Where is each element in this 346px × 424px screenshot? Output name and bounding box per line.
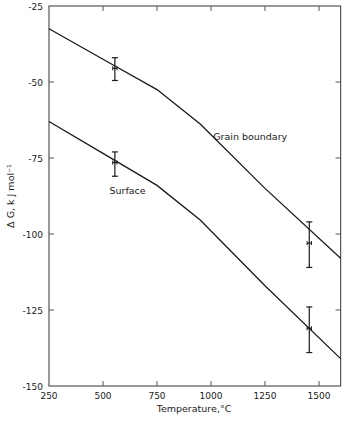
plot-frame — [49, 6, 341, 386]
x-tick-label: 250 — [40, 391, 57, 401]
x-tick-label: 1500 — [308, 391, 331, 401]
y-tick-label: -150 — [23, 382, 44, 392]
series-label-grain-boundary: Grain boundary — [213, 131, 287, 142]
x-tick-label: 500 — [94, 391, 111, 401]
x-tick-label: 1000 — [200, 391, 223, 401]
y-tick-label: -125 — [23, 306, 43, 316]
x-tick-label: 1250 — [254, 391, 277, 401]
axis-ticks: 250500750100012501500-25-50-75-100-125-1… — [23, 2, 341, 402]
y-tick-label: -50 — [28, 78, 43, 88]
series-line-surface — [49, 122, 341, 359]
y-axis-title: Δ G, k J mol⁻¹ — [5, 164, 16, 228]
y-tick-label: -100 — [23, 230, 44, 240]
x-tick-label: 750 — [148, 391, 165, 401]
y-tick-label: -25 — [28, 2, 43, 12]
series-label-surface: Surface — [109, 185, 145, 196]
series-lines — [49, 29, 341, 359]
chart: 250500750100012501500-25-50-75-100-125-1… — [0, 0, 346, 424]
x-axis-title: Temperature,°C — [156, 403, 232, 414]
y-tick-label: -75 — [28, 154, 43, 164]
plot-border — [49, 6, 341, 386]
series-line-grain-boundary — [49, 29, 341, 258]
